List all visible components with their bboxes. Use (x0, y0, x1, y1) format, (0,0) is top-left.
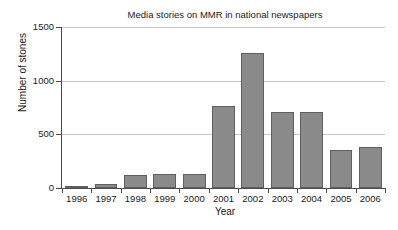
bar (65, 186, 88, 188)
x-tick-label: 2002 (238, 193, 267, 204)
x-tick-label: 2004 (297, 193, 326, 204)
x-tick-label: 2000 (179, 193, 208, 204)
y-tick-label-wrap: 1500 (0, 22, 54, 31)
x-tick-label: 2006 (356, 193, 385, 204)
bar (212, 106, 235, 188)
y-tick-label: 1500 (6, 22, 54, 31)
x-tick-label: 1998 (121, 193, 150, 204)
x-tick-mark (385, 188, 386, 193)
y-tick-label-wrap: 500 (0, 129, 54, 138)
y-tick-label: 0 (6, 183, 54, 192)
y-tick-label-wrap: 1000 (0, 76, 54, 85)
bar-chart-figure: Media stories on MMR in national newspap… (0, 0, 398, 230)
x-tick-label: 2005 (326, 193, 355, 204)
bar (300, 112, 323, 188)
y-tick-label: 500 (6, 129, 54, 138)
bars-layer (62, 27, 385, 188)
bar (359, 147, 382, 188)
bar (330, 150, 353, 188)
bar (124, 175, 147, 188)
y-tick-label-wrap: 0 (0, 183, 54, 192)
x-tick-label: 1999 (150, 193, 179, 204)
x-axis-line (61, 188, 385, 189)
x-tick-label: 2003 (268, 193, 297, 204)
x-axis-title: Year (62, 206, 388, 217)
y-tick-label: 1000 (6, 76, 54, 85)
bar (241, 53, 264, 188)
bar (95, 184, 118, 188)
bar (183, 174, 206, 188)
bar (153, 174, 176, 188)
bar (271, 112, 294, 188)
x-tick-label: 1997 (91, 193, 120, 204)
x-tick-label: 2001 (209, 193, 238, 204)
chart-title: Media stories on MMR in national newspap… (62, 9, 388, 20)
x-tick-label: 1996 (62, 193, 91, 204)
